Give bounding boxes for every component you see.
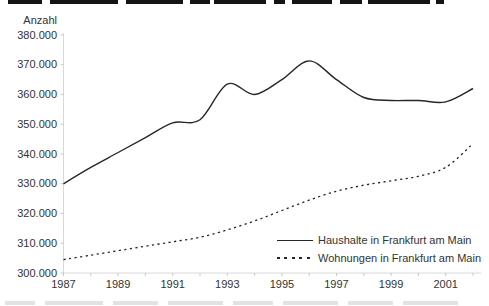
dashed-line-sample [277, 257, 313, 259]
y-tick-label: 330.000 [0, 177, 57, 190]
x-tick-label: 2001 [424, 278, 468, 291]
x-tick-label: 1989 [96, 278, 140, 291]
y-tick-label: 310.000 [0, 237, 57, 250]
cropped-text-fragment [45, 301, 103, 305]
legend-label-haushalte: Haushalte in Frankfurt am Main [318, 234, 471, 246]
y-tick-label: 350.000 [0, 118, 57, 131]
x-tick-label: 1991 [151, 278, 195, 291]
cropped-text-fragment [113, 301, 158, 305]
series-lines [64, 61, 474, 260]
legend-label-wohnungen: Wohnungen in Frankfurt am Main [318, 252, 481, 264]
x-tick-label: 1999 [369, 278, 413, 291]
legend: Haushalte in Frankfurt am Main Wohnungen… [277, 231, 481, 267]
y-tick-label: 380.000 [0, 29, 57, 42]
cropped-text-fragment [348, 301, 393, 305]
y-tick-label: 320.000 [0, 207, 57, 220]
y-tick-label: 360.000 [0, 88, 57, 101]
x-tick-label: 1987 [42, 278, 86, 291]
cropped-text-fragment [233, 301, 273, 305]
x-tick-label: 1993 [205, 278, 249, 291]
line-chart: Anzahl 300.000310.000320.000330.000340.0… [0, 0, 489, 306]
x-tick-label: 1995 [260, 278, 304, 291]
cropped-text-fragment [5, 301, 35, 305]
x-tick-label: 1997 [315, 278, 359, 291]
cropped-text-fragment [403, 301, 458, 305]
y-tick-label: 340.000 [0, 148, 57, 161]
series-line-haushalte [64, 61, 474, 184]
cropped-text-fragment [168, 301, 223, 305]
solid-line-sample [277, 240, 313, 241]
y-tick-label: 370.000 [0, 58, 57, 71]
legend-item-haushalte: Haushalte in Frankfurt am Main [277, 231, 481, 249]
cropped-caption-remnant [0, 301, 489, 305]
legend-item-wohnungen: Wohnungen in Frankfurt am Main [277, 249, 481, 267]
cropped-text-fragment [283, 301, 338, 305]
